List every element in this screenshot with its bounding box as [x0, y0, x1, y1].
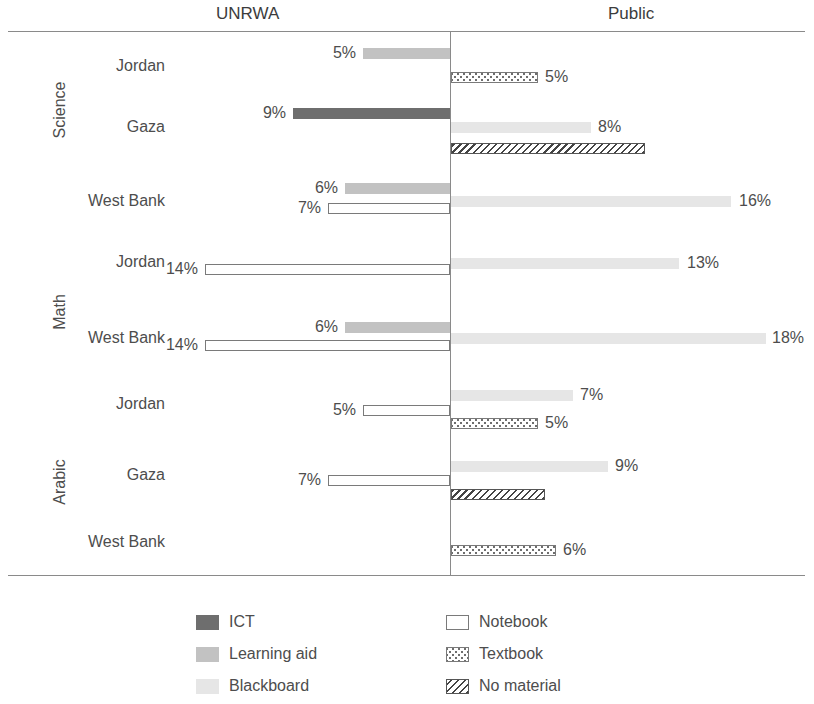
legend-label-textbook: Textbook — [479, 645, 543, 663]
legend-item-blackboard: Blackboard — [196, 673, 309, 699]
legend-swatch-blackboard-icon — [196, 679, 219, 694]
bar-science-jordan-public-textbook — [451, 72, 538, 83]
value-math-jordan-public-blackboard: 13% — [687, 255, 719, 271]
bar-science-jordan-unrwa-learning-aid — [363, 48, 450, 59]
panel-title-unrwa: UNRWA — [216, 4, 279, 24]
value-science-gaza-unrwa-ict: 9% — [208, 105, 286, 121]
legend-label-blackboard: Blackboard — [229, 677, 309, 695]
group-label-science: Science — [0, 101, 120, 119]
row-label-science-westbank: West Bank — [30, 192, 165, 210]
value-math-westbank-public-blackboard: 18% — [772, 330, 804, 346]
value-science-jordan-unrwa-learning-aid: 5% — [278, 45, 356, 61]
value-science-westbank-unrwa-learning-aid: 6% — [260, 180, 338, 196]
row-label-arabic-westbank: West Bank — [30, 533, 165, 551]
legend-swatch-notebook-icon — [446, 615, 469, 630]
legend-item-notebook: Notebook — [446, 609, 548, 635]
row-label-arabic-jordan: Jordan — [30, 395, 165, 413]
legend-item-textbook: Textbook — [446, 641, 543, 667]
bar-science-gaza-public-blackboard — [451, 122, 591, 133]
plot-bottom-rule — [8, 575, 805, 576]
bar-arabic-gaza-unrwa-notebook — [328, 475, 450, 486]
value-arabic-westbank-public-textbook: 6% — [563, 542, 586, 558]
value-arabic-jordan-public-blackboard: 7% — [580, 387, 603, 403]
bar-arabic-jordan-public-textbook — [451, 418, 538, 429]
value-math-westbank-unrwa-notebook: 14% — [113, 337, 198, 353]
legend: ICT Learning aid Blackboard Notebook Tex… — [0, 605, 814, 704]
bar-arabic-jordan-public-blackboard — [451, 390, 573, 401]
bar-science-westbank-unrwa-learning-aid — [345, 183, 450, 194]
value-arabic-jordan-public-textbook: 5% — [545, 415, 568, 431]
bar-science-gaza-public-no-material — [451, 143, 645, 154]
chart-container: UNRWA Public Science Math Arabic Jordan … — [0, 0, 814, 704]
legend-label-notebook: Notebook — [479, 613, 548, 631]
legend-label-no-material: No material — [479, 677, 561, 695]
value-science-gaza-public-blackboard: 8% — [598, 119, 621, 135]
panel-title-public: Public — [608, 4, 654, 24]
bar-arabic-jordan-unrwa-notebook — [363, 405, 450, 416]
legend-label-ict: ICT — [229, 613, 255, 631]
bar-math-westbank-public-blackboard — [451, 333, 766, 344]
bar-math-westbank-unrwa-learning-aid — [345, 322, 450, 333]
value-arabic-jordan-unrwa-notebook: 5% — [278, 402, 356, 418]
value-math-jordan-unrwa-notebook: 14% — [113, 261, 198, 277]
value-science-westbank-public-blackboard: 16% — [739, 193, 771, 209]
group-label-math-text: Math — [51, 294, 69, 330]
bar-math-jordan-unrwa-notebook — [205, 264, 450, 275]
bar-science-gaza-unrwa-ict — [293, 108, 450, 119]
bar-math-westbank-unrwa-notebook — [205, 340, 450, 351]
plot-top-rule — [8, 31, 805, 32]
legend-swatch-ict-icon — [196, 615, 219, 630]
legend-item-learning-aid: Learning aid — [196, 641, 317, 667]
value-science-jordan-public-textbook: 5% — [545, 69, 568, 85]
value-science-westbank-unrwa-notebook: 7% — [243, 200, 321, 216]
legend-label-learning-aid: Learning aid — [229, 645, 317, 663]
bar-arabic-gaza-public-blackboard — [451, 461, 608, 472]
legend-item-ict: ICT — [196, 609, 255, 635]
legend-swatch-learning-aid-icon — [196, 647, 219, 662]
bar-arabic-westbank-public-textbook — [451, 545, 556, 556]
legend-swatch-textbook-icon — [446, 647, 469, 662]
bar-science-westbank-unrwa-notebook — [328, 203, 450, 214]
value-math-westbank-unrwa-learning-aid: 6% — [260, 319, 338, 335]
group-label-math: Math — [0, 303, 120, 321]
bar-arabic-gaza-public-no-material — [451, 489, 545, 500]
bar-math-jordan-public-blackboard — [451, 258, 679, 269]
row-label-science-jordan: Jordan — [30, 57, 165, 75]
legend-item-no-material: No material — [446, 673, 561, 699]
bar-science-westbank-public-blackboard — [451, 196, 731, 207]
row-label-science-gaza: Gaza — [30, 118, 165, 136]
value-arabic-gaza-public-blackboard: 9% — [615, 458, 638, 474]
legend-swatch-no-material-icon — [446, 679, 469, 694]
value-arabic-gaza-unrwa-notebook: 7% — [243, 472, 321, 488]
row-label-arabic-gaza: Gaza — [30, 466, 165, 484]
